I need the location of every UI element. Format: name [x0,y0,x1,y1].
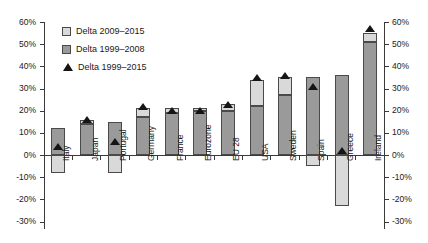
y-axis-tick-mark-right [385,66,389,67]
bar-segment-delta-2009-2015[interactable] [335,155,349,206]
y-axis-tick-mark-left [40,89,44,90]
x-axis-category-label: Spain [317,139,326,161]
x-axis-tick-mark [355,156,356,160]
y-axis-tick-mark-left [40,66,44,67]
y-axis-tick-label-left: -30% [2,217,36,226]
y-axis-tick-label-right: 60% [392,18,428,27]
marker-delta-1999-2015 [280,72,290,79]
marker-delta-1999-2015 [223,101,233,108]
x-axis-category-label: France [176,135,185,161]
x-axis-tick-mark [100,156,101,160]
y-axis-tick-mark-left [40,22,44,23]
y-axis-tick-mark-right [385,22,389,23]
legend-label: Delta 1999–2008 [76,44,145,54]
marker-delta-1999-2015 [82,116,92,123]
y-axis-tick-label-left: 0% [2,151,36,160]
y-axis-line [44,22,45,229]
y-axis-tick-mark-left [40,44,44,45]
y-axis-tick-label-right: -10% [392,173,428,182]
y-axis-tick-label-right: 20% [392,106,428,115]
bar-segment-delta-2009-2015[interactable] [363,33,377,42]
x-axis-tick-mark [72,156,73,160]
x-axis-category-label: Germany [147,126,156,161]
x-axis-category-label: Portugal [119,129,128,161]
legend-item[interactable]: Delta 1999–2015 [62,62,147,72]
y-axis-tick-mark-left [40,111,44,112]
x-axis-tick-mark [384,156,385,160]
y-axis-tick-mark-right [385,111,389,112]
y-axis-tick-label-left: 10% [2,128,36,137]
y-axis-tick-label-right: 50% [392,40,428,49]
legend-label: Delta 1999–2015 [78,62,147,72]
y-axis-tick-label-left: 60% [2,18,36,27]
y-axis-tick-mark-left [40,177,44,178]
marker-delta-1999-2015 [195,107,205,114]
y-axis-tick-label-left: 40% [2,62,36,71]
y-axis-tick-mark-left [40,222,44,223]
y-axis-tick-mark-left [40,155,44,156]
triangle-marker-icon [63,63,73,71]
marker-delta-1999-2015 [365,25,375,32]
y-axis-tick-mark-right [385,89,389,90]
chart-container: 60%60%50%50%40%40%30%30%20%20%10%10%0%0%… [0,0,428,243]
y-axis-tick-label-left: 50% [2,40,36,49]
y-axis-tick-mark-right [385,44,389,45]
y-axis-tick-label-right: 30% [392,84,428,93]
x-axis-category-label: Ireland [374,135,383,161]
x-axis-tick-mark [129,156,130,160]
marker-delta-1999-2015 [167,107,177,114]
x-axis-category-label: Sweden [289,130,298,161]
bar-segment-delta-2009-2015[interactable] [250,80,264,107]
y-axis-tick-mark-right [385,133,389,134]
y-axis-tick-label-left: -10% [2,173,36,182]
x-axis-tick-mark [327,156,328,160]
x-axis-category-label: Japan [91,138,100,161]
x-axis-category-label: Eurozone [204,125,213,161]
y-axis-tick-mark-left [40,199,44,200]
x-axis-tick-mark [157,156,158,160]
y-axis-tick-mark-right [385,199,389,200]
marker-delta-1999-2015 [308,83,318,90]
y-axis-tick-mark-right [385,177,389,178]
y-axis-tick-label-right: 0% [392,151,428,160]
y-axis-tick-label-left: 20% [2,106,36,115]
y-axis-tick-mark-right [385,222,389,223]
y-axis-line [384,22,385,229]
x-axis-category-label: USA [261,144,270,161]
x-axis-category-label: EU 28 [232,137,241,161]
marker-delta-1999-2015 [138,103,148,110]
y-axis-tick-label-right: 40% [392,62,428,71]
bar-segment-delta-2009-2015[interactable] [278,77,292,95]
y-axis-tick-label-left: 30% [2,84,36,93]
legend-label: Delta 2009–2015 [76,26,145,36]
y-axis-tick-label-right: -20% [392,195,428,204]
y-axis-tick-mark-right [385,155,389,156]
y-axis-tick-label-right: 10% [392,128,428,137]
legend-swatch-icon [62,27,71,36]
x-axis-tick-mark [214,156,215,160]
y-axis-tick-mark-left [40,133,44,134]
y-axis-tick-label-left: -20% [2,195,36,204]
x-axis-tick-mark [299,156,300,160]
legend-item[interactable]: Delta 2009–2015 [62,26,145,36]
legend-swatch-icon [62,45,71,54]
x-axis-tick-mark [185,156,186,160]
marker-delta-1999-2015 [252,74,262,81]
y-axis-tick-label-right: -30% [392,217,428,226]
x-axis-category-label: Greece [346,133,355,161]
x-axis-tick-mark [270,156,271,160]
bar-segment-delta-2009-2015[interactable] [136,108,150,117]
x-axis-category-label: Italy [62,145,71,161]
legend-item[interactable]: Delta 1999–2008 [62,44,145,54]
x-axis-tick-mark [242,156,243,160]
